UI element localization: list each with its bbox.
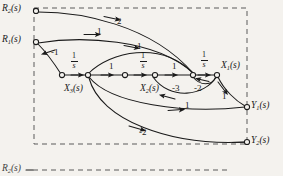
- node-y1: [244, 104, 249, 109]
- gain-label-r1-to-node1: -1: [51, 48, 59, 57]
- gain-label-integrator-x1: 1 s: [198, 51, 210, 69]
- node-x2: [152, 72, 157, 77]
- node-sum-2: [122, 72, 127, 77]
- node-label-y1: Y1(s): [251, 101, 269, 111]
- gain-label-x3-to-node3: 1: [137, 42, 142, 51]
- next-figure-partial-label-r2: R2(s): [2, 164, 21, 174]
- branch-r1-to-node3: [38, 40, 193, 73]
- gain-label-x1-to-x2-feedback: -3: [172, 84, 180, 93]
- signal-flow-graph-figure: R2(s) R1(s) X3(s) X2(s) X1(s) Y1(s) Y2(s…: [0, 0, 283, 176]
- gain-label-x3-to-y1: 1: [185, 101, 190, 110]
- node-r1: [33, 39, 38, 44]
- node-y2: [244, 139, 249, 144]
- gain-label-x1-to-node3-feedback: -2: [194, 84, 202, 93]
- node-x1: [214, 72, 219, 77]
- branch-x1-to-x2-feedback: [153, 77, 216, 93]
- gain-label-r1-to-node3: 1: [97, 27, 102, 36]
- node-label-x3: X3(s): [64, 84, 83, 94]
- gain-label-r2-to-node3: 2: [117, 17, 122, 26]
- node-x3: [85, 72, 90, 77]
- gain-label-x2-to-node3: 1: [172, 62, 177, 71]
- gain-label-x3-to-y2: -2: [139, 128, 147, 137]
- node-r2: [33, 8, 38, 13]
- node-label-y2: Y2(s): [251, 136, 269, 146]
- node-label-x1: X1(s): [221, 61, 240, 71]
- branch-x1-to-node3-arrowhead: [198, 79, 209, 82]
- node-sum-1: [59, 72, 64, 77]
- node-label-r1: R1(s): [2, 35, 21, 45]
- node-label-x2: X2(s): [140, 84, 159, 94]
- gain-label-integrator-x2: 1 s: [137, 52, 149, 70]
- node-sum-3: [190, 72, 195, 77]
- branch-x1-to-x2-arrowhead: [162, 96, 175, 100]
- gain-label-integrator-x3: 1 s: [68, 52, 80, 70]
- branch-r2-arrowhead: [104, 17, 118, 20]
- node-label-r2: R2(s): [2, 4, 21, 14]
- branch-x3-to-y2: [89, 78, 245, 142]
- gain-label-x3-to-node2: 1: [109, 62, 114, 71]
- gain-label-x1-to-y1: 1: [222, 92, 227, 101]
- branch-x3-to-y1-arrowhead: [168, 110, 182, 111]
